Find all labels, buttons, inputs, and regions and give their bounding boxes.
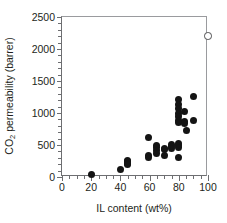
y-tick-minor — [58, 132, 62, 133]
x-tick-label: 20 — [85, 182, 97, 193]
x-tick-major — [62, 175, 63, 181]
y-tick-minor — [58, 158, 62, 159]
data-point — [181, 120, 188, 127]
x-tick-minor — [77, 175, 78, 179]
y-tick-minor — [58, 107, 62, 108]
scatter-chart: CO2 permeability (barrer) IL content (wt… — [0, 0, 227, 223]
y-tick-label: 500 — [37, 140, 55, 151]
data-point — [190, 93, 197, 100]
data-point — [181, 108, 188, 115]
y-tick-label: 1500 — [32, 76, 55, 87]
data-point — [153, 150, 160, 157]
y-tick-minor — [58, 139, 62, 140]
y-tick-minor — [58, 151, 62, 152]
data-point — [175, 144, 182, 151]
x-tick-minor — [201, 175, 202, 179]
x-tick-major — [208, 175, 209, 181]
data-point — [124, 161, 131, 168]
x-tick-label: 60 — [144, 182, 156, 193]
x-tick-minor — [135, 175, 136, 179]
y-tick-minor — [58, 100, 62, 101]
y-tick-label: 0 — [49, 172, 55, 183]
x-tick-minor — [142, 175, 143, 179]
y-tick-major — [57, 81, 63, 82]
y-tick-minor — [58, 23, 62, 24]
y-tick-minor — [58, 171, 62, 172]
y-tick-major — [57, 145, 63, 146]
plot-area: 05001000150020002500 020406080100 — [61, 16, 207, 176]
y-tick-minor — [58, 43, 62, 44]
data-point — [183, 127, 190, 134]
x-tick-minor — [172, 175, 173, 179]
y-tick-minor — [58, 55, 62, 56]
x-tick-label: 80 — [173, 182, 185, 193]
y-tick-label: 1000 — [32, 108, 55, 119]
data-point — [161, 152, 168, 159]
x-tick-label: 0 — [59, 182, 65, 193]
y-tick-major — [57, 17, 63, 18]
y-tick-minor — [58, 119, 62, 120]
data-point — [175, 154, 182, 161]
x-tick-minor — [157, 175, 158, 179]
x-tick-minor — [186, 175, 187, 179]
x-axis-title: IL content (wt%) — [61, 203, 207, 214]
data-point — [117, 166, 124, 173]
x-tick-minor — [99, 175, 100, 179]
y-tick-minor — [58, 75, 62, 76]
x-tick-minor — [193, 175, 194, 179]
y-tick-major — [57, 113, 63, 114]
x-tick-label: 40 — [115, 182, 127, 193]
y-tick-minor — [58, 87, 62, 88]
x-tick-minor — [84, 175, 85, 179]
data-point — [190, 117, 197, 124]
y-tick-minor — [58, 62, 62, 63]
data-point — [88, 171, 95, 178]
x-tick-major — [150, 175, 151, 181]
y-axis-title-text: CO2 permeability (barrer) — [4, 37, 15, 154]
x-tick-label: 100 — [199, 182, 217, 193]
y-tick-minor — [58, 94, 62, 95]
x-tick-major — [179, 175, 180, 181]
data-point — [145, 134, 152, 141]
x-tick-minor — [69, 175, 70, 179]
y-tick-minor — [58, 30, 62, 31]
data-point — [204, 32, 212, 40]
y-tick-label: 2500 — [32, 12, 55, 23]
y-tick-label: 2000 — [32, 44, 55, 55]
y-tick-minor — [58, 164, 62, 165]
y-tick-minor — [58, 126, 62, 127]
x-tick-minor — [164, 175, 165, 179]
y-tick-minor — [58, 36, 62, 37]
y-axis-title: CO2 permeability (barrer) — [2, 16, 16, 176]
x-tick-major — [120, 175, 121, 181]
data-point — [145, 154, 152, 161]
x-tick-minor — [113, 175, 114, 179]
x-tick-minor — [106, 175, 107, 179]
data-point — [168, 145, 175, 152]
y-tick-major — [57, 49, 63, 50]
y-tick-minor — [58, 68, 62, 69]
x-tick-minor — [128, 175, 129, 179]
